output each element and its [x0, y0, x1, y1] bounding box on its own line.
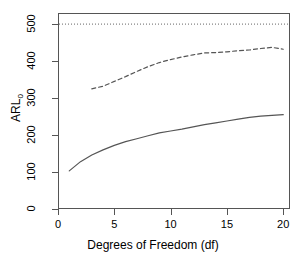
x-axis-tick-label-wrap: 5	[99, 218, 129, 231]
x-axis-tick	[114, 209, 115, 215]
data-series-layer	[69, 47, 283, 171]
x-axis-tick-label-wrap: 0	[43, 218, 73, 231]
y-axis-tick-label: 500	[26, 7, 37, 41]
y-axis-tick-label-wrap: 400	[14, 55, 48, 67]
chart-figure: 0100200300400500 ARL0 05101520 Degrees o…	[0, 0, 306, 265]
x-axis-tick-label: 5	[99, 218, 129, 231]
y-axis-tick-label: 0	[26, 192, 37, 226]
x-axis-tick	[58, 209, 59, 215]
y-axis-title-subscript: 0	[16, 94, 25, 98]
y-axis-tick-label: 200	[26, 118, 37, 152]
x-axis-tick	[283, 209, 284, 215]
y-axis-tick	[52, 172, 58, 173]
y-axis-tick	[52, 61, 58, 62]
x-axis-tick	[227, 209, 228, 215]
series-line-lower-curve	[69, 115, 283, 171]
y-axis-title: ARL0	[8, 78, 24, 138]
series-line-upper-curve	[92, 47, 283, 88]
x-axis-title: Degrees of Freedom (df)	[0, 238, 306, 252]
y-axis-title-base: ARL	[9, 99, 23, 122]
y-axis-tick-label: 400	[26, 44, 37, 78]
y-axis-tick-label: 300	[26, 81, 37, 115]
x-axis-tick-label: 10	[156, 218, 186, 231]
y-axis-tick	[52, 135, 58, 136]
x-axis-tick	[171, 209, 172, 215]
x-axis-tick-label-wrap: 20	[268, 218, 298, 231]
x-axis-tick-label-wrap: 10	[156, 218, 186, 231]
y-axis-tick-label-wrap: 0	[14, 203, 48, 215]
x-axis-tick-label: 20	[268, 218, 298, 231]
y-axis-tick	[52, 24, 58, 25]
x-axis-tick-label-wrap: 15	[212, 218, 242, 231]
x-axis-tick-label: 0	[43, 218, 73, 231]
y-axis-tick	[52, 98, 58, 99]
y-axis-tick-label-wrap: 500	[14, 18, 48, 30]
x-axis-tick-label: 15	[212, 218, 242, 231]
y-axis-tick-label-wrap: 100	[14, 166, 48, 178]
y-axis-tick-label: 100	[26, 155, 37, 189]
